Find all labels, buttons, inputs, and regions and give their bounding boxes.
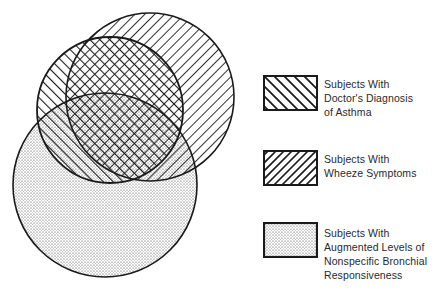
legend-line: Augmented Levels of bbox=[324, 240, 427, 254]
legend-line: Subjects With bbox=[324, 226, 427, 240]
legend-label-asthma: Subjects With Doctor's Diagnosis of Asth… bbox=[324, 77, 413, 119]
legend-line: Responsiveness bbox=[324, 268, 427, 282]
legend-line: Subjects With bbox=[324, 77, 413, 91]
legend-line: Wheeze Symptoms bbox=[324, 166, 417, 180]
legend-line: Nonspecific Bronchial bbox=[324, 254, 427, 268]
legend-line: Doctor's Diagnosis bbox=[324, 91, 413, 105]
forward-slash-hatch-swatch-icon bbox=[263, 150, 318, 186]
venn-diagram bbox=[0, 0, 260, 292]
backslash-hatch-swatch-icon bbox=[263, 75, 318, 111]
legend-label-bhr: Subjects With Augmented Levels of Nonspe… bbox=[324, 226, 427, 282]
stipple-swatch-icon bbox=[263, 222, 318, 258]
legend-line: of Asthma bbox=[324, 105, 413, 119]
legend-label-wheeze: Subjects With Wheeze Symptoms bbox=[324, 152, 417, 180]
legend-line: Subjects With bbox=[324, 152, 417, 166]
